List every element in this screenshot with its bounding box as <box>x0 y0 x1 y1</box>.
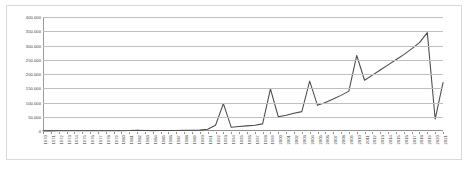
x-axis-tick-label: 1998 <box>263 135 268 145</box>
x-axis-tick-mark <box>365 132 366 134</box>
x-axis-tick-label: 2000 <box>278 135 283 145</box>
plot-area <box>43 17 443 131</box>
gridline <box>43 17 443 18</box>
x-axis-tick-label: 1971 <box>51 135 56 145</box>
x-axis-tick-label: 2013 <box>380 135 385 145</box>
x-axis: 1970197119721973197419751976197719781979… <box>43 132 443 160</box>
x-axis-tick-label: 2009 <box>349 135 354 145</box>
x-axis-tick-label: 1994 <box>231 135 236 145</box>
gridline <box>43 117 443 118</box>
x-axis-tick-label: 2008 <box>341 135 346 145</box>
gridline <box>43 31 443 32</box>
x-axis-tick-label: 2021 <box>443 135 448 145</box>
x-axis-tick-label: 2010 <box>357 135 362 145</box>
x-axis-tick-label: 1996 <box>247 135 252 145</box>
x-axis-tick-label: 2004 <box>310 135 315 145</box>
x-axis-tick-label: 1985 <box>161 135 166 145</box>
x-axis-tick-label: 2020 <box>435 135 440 145</box>
x-axis-tick-label: 2011 <box>365 135 370 144</box>
x-axis-tick-label: 2015 <box>396 135 401 145</box>
y-axis-tick-label: 50.000 <box>28 114 41 119</box>
x-axis-tick-label: 1992 <box>216 135 221 145</box>
gridline <box>43 46 443 47</box>
x-axis-tick-label: 2019 <box>427 135 432 145</box>
x-axis-tick-label: 2002 <box>294 135 299 145</box>
x-axis-tick-label: 1973 <box>67 135 72 145</box>
x-axis-tick-label: 1976 <box>90 135 95 145</box>
x-axis-tick-label: 1981 <box>129 135 134 145</box>
x-axis-tick-label: 1987 <box>176 135 181 145</box>
x-axis-tick-label: 2016 <box>404 135 409 145</box>
y-axis-tick-label: 100.000 <box>26 100 41 105</box>
gridline <box>43 60 443 61</box>
x-axis-tick-label: 1991 <box>208 135 213 145</box>
y-axis-tick-label: 400.000 <box>26 15 41 20</box>
gridline <box>43 74 443 75</box>
x-axis-tick-label: 1984 <box>153 135 158 145</box>
x-axis-tick-label: 1997 <box>255 135 260 145</box>
x-axis-tick-label: 2003 <box>302 135 307 145</box>
y-axis-tick-label: 150.000 <box>26 86 41 91</box>
x-axis-tick-label: 1993 <box>223 135 228 145</box>
y-axis-tick-label: 0 <box>39 129 41 134</box>
gridline <box>43 103 443 104</box>
x-axis-tick-label: 1972 <box>59 135 64 145</box>
x-axis-tick-label: 1970 <box>43 135 48 145</box>
y-axis-tick-label: 300.000 <box>26 43 41 48</box>
x-axis-tick-label: 1990 <box>200 135 205 145</box>
chart-container: 050.000100.000150.000200.000250.000300.0… <box>6 5 462 160</box>
x-axis-tick-label: 1995 <box>239 135 244 145</box>
x-axis-tick-label: 2005 <box>318 135 323 145</box>
x-axis-tick-label: 1975 <box>82 135 87 145</box>
x-axis-tick-label: 1974 <box>74 135 79 145</box>
x-axis-tick-label: 1999 <box>270 135 275 145</box>
x-axis-tick-label: 1977 <box>98 135 103 145</box>
chart-plot-wrapper: 050.000100.000150.000200.000250.000300.0… <box>7 6 463 161</box>
x-axis-tick-label: 2018 <box>419 135 424 145</box>
x-axis-tick-label: 1988 <box>184 135 189 145</box>
x-axis-tick-label: 1986 <box>168 135 173 145</box>
x-axis-tick-label: 2001 <box>286 135 291 145</box>
x-axis-tick-label: 2017 <box>412 135 417 145</box>
gridline <box>43 88 443 89</box>
x-axis-tick-label: 1980 <box>121 135 126 145</box>
x-axis-tick-label: 2007 <box>333 135 338 145</box>
y-axis-tick-label: 250.000 <box>26 57 41 62</box>
x-axis-tick-label: 1989 <box>192 135 197 145</box>
x-axis-tick-label: 2012 <box>372 135 377 145</box>
y-axis-tick-label: 350.000 <box>26 29 41 34</box>
x-axis-tick-label: 1978 <box>106 135 111 145</box>
x-axis-tick-label: 1983 <box>145 135 150 145</box>
y-axis: 050.000100.000150.000200.000250.000300.0… <box>7 6 43 161</box>
x-axis-tick-label: 2006 <box>325 135 330 145</box>
x-axis-tick-label: 2014 <box>388 135 393 145</box>
y-axis-tick-label: 200.000 <box>26 72 41 77</box>
x-axis-tick-label: 1982 <box>137 135 142 145</box>
x-axis-tick-label: 1979 <box>114 135 119 145</box>
